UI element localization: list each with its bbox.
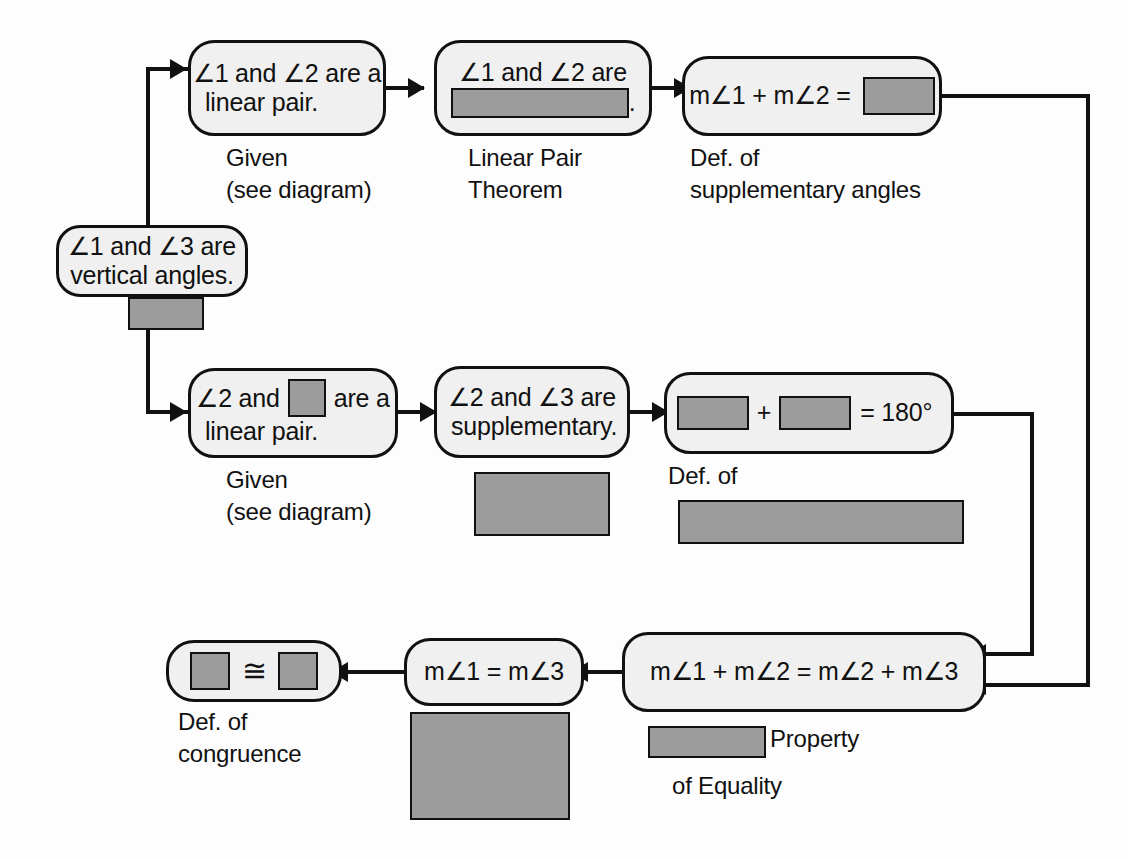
node-def-supp-result: m∠1 + m∠2 = <box>682 56 942 136</box>
caption-defsupp-line1: Def. of <box>690 142 921 174</box>
node-lp-theorem-prefix: ∠1 and ∠2 are <box>459 58 627 88</box>
redacted-vertical-angles-reason <box>128 297 204 330</box>
redacted-lp-theorem <box>451 88 629 118</box>
caption-property-line2: of Equality <box>672 770 782 802</box>
node-linear-pair-12-line1: ∠1 and ∠2 are a <box>193 59 381 89</box>
caption-given-middle-line2: (see diagram) <box>226 496 371 528</box>
node-m1-eq-m3: m∠1 = m∠3 <box>404 638 584 706</box>
redacted-congruence-term-a <box>190 652 230 690</box>
node-sum-180: + = 180° <box>664 372 954 454</box>
connector-inner-bottom <box>986 652 1034 656</box>
node-m1m3-text: m∠1 = m∠3 <box>424 657 564 687</box>
connector-transitive-to-m1m3 <box>584 670 624 674</box>
node-lp-theorem-result: ∠1 and ∠2 are . <box>434 40 652 136</box>
redacted-def-supp-value <box>863 77 935 115</box>
connector-outer-vertical <box>1086 94 1090 687</box>
redacted-reason-m1-eq-m3 <box>410 712 570 820</box>
caption-defof-line1: Def. of <box>668 460 737 492</box>
caption-of-equality: of Equality <box>672 770 782 802</box>
connector-m1m3-to-congruence <box>348 670 404 674</box>
node-lp-theorem-suffix: . <box>629 88 636 118</box>
caption-def-of-redacted: Def. of <box>668 460 737 492</box>
node-sum180-row: + = 180° <box>677 396 941 430</box>
node-transitive-eq: m∠1 + m∠2 = m∠2 + m∠3 <box>622 632 986 712</box>
redacted-property-name <box>648 726 766 758</box>
proof-flowchart-page: ∠1 and ∠3 are vertical angles. ∠1 and ∠2… <box>0 0 1128 859</box>
node-def-supp-prefix: m∠1 + m∠2 = <box>689 81 850 111</box>
redacted-reason-def-of <box>678 500 964 544</box>
caption-lpt-line2: Theorem <box>468 174 582 206</box>
redacted-lp23-angle <box>288 379 326 417</box>
arrow-to-linear-pair-12 <box>170 59 187 79</box>
caption-given-top-line2: (see diagram) <box>226 174 371 206</box>
congruence-symbol: ≅ <box>230 656 279 686</box>
redacted-sum180-term-b <box>779 396 851 430</box>
node-lp23-mid: are a <box>334 384 390 414</box>
node-lp23-prefix: ∠2 and <box>196 384 279 414</box>
caption-property-line1: Property <box>770 723 859 755</box>
redacted-sum180-term-a <box>677 396 749 430</box>
connector-sum180-right <box>954 412 1034 416</box>
caption-property-of-equality: Property <box>770 723 859 755</box>
caption-defcong-line1: Def. of <box>178 706 301 738</box>
node-lp23-row1: ∠2 and are a <box>196 379 389 417</box>
node-supp23-line2: supplementary. <box>451 412 617 442</box>
caption-defcong-line2: congruence <box>178 738 301 770</box>
arrow-to-linear-pair-23 <box>170 402 187 422</box>
caption-def-supplementary: Def. of supplementary angles <box>690 142 921 205</box>
node-vertical-angles-line1: ∠1 and ∠3 are <box>68 232 236 262</box>
caption-def-congruence: Def. of congruence <box>178 706 301 769</box>
node-linear-pair-12-line2: linear pair. <box>205 88 318 118</box>
node-congruence-row: ≅ <box>190 652 319 690</box>
caption-given-top: Given (see diagram) <box>226 142 371 205</box>
connector-outer-bottom <box>986 683 1090 687</box>
node-sum180-equals: = 180° <box>851 398 941 428</box>
redacted-reason-supplementary <box>474 472 610 536</box>
connector-defsupp-right <box>942 94 1090 98</box>
caption-lpt-line1: Linear Pair <box>468 142 582 174</box>
caption-linear-pair-theorem: Linear Pair Theorem <box>468 142 582 205</box>
node-def-supp-row: m∠1 + m∠2 = <box>689 77 934 115</box>
arrow-to-lp-theorem <box>408 78 425 98</box>
redacted-congruence-term-b <box>278 652 318 690</box>
node-vertical-angles-line2: vertical angles. <box>70 261 234 291</box>
node-lp-theorem-redacted-row: . <box>451 88 636 118</box>
node-transitive-text: m∠1 + m∠2 = m∠2 + m∠3 <box>650 657 958 687</box>
node-lp23-line2: linear pair. <box>205 417 318 447</box>
node-linear-pair-23: ∠2 and are a linear pair. <box>188 368 398 458</box>
node-supp23-line1: ∠2 and ∠3 are <box>448 383 616 413</box>
connector-inner-vertical <box>1030 412 1034 656</box>
node-supplementary-23: ∠2 and ∠3 are supplementary. <box>434 366 630 458</box>
node-vertical-angles: ∠1 and ∠3 are vertical angles. <box>56 225 248 297</box>
caption-given-top-line1: Given <box>226 142 371 174</box>
node-sum180-plus: + <box>749 398 779 428</box>
caption-given-middle-line1: Given <box>226 464 371 496</box>
node-congruence-result: ≅ <box>166 640 342 702</box>
connector-branch-vertical-down <box>146 330 150 414</box>
caption-defsupp-line2: supplementary angles <box>690 174 921 206</box>
caption-given-middle: Given (see diagram) <box>226 464 371 527</box>
node-linear-pair-12: ∠1 and ∠2 are a linear pair. <box>188 40 386 136</box>
